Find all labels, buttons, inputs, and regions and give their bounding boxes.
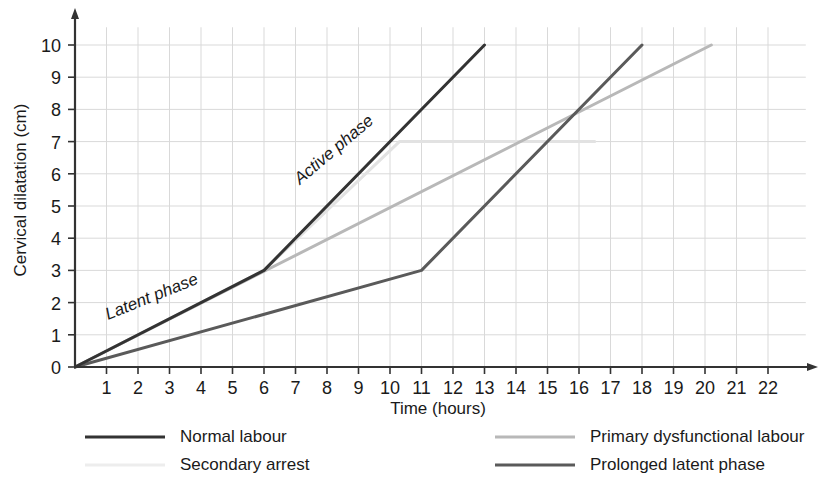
legend-label: Secondary arrest — [180, 455, 310, 474]
y-tick-label: 1 — [51, 326, 61, 346]
legend-item: Secondary arrest — [85, 455, 310, 474]
y-tick-label: 10 — [41, 36, 61, 56]
x-tick-label: 8 — [322, 378, 332, 398]
y-tick-label: 7 — [51, 133, 61, 153]
series-line — [75, 142, 595, 367]
x-tick-labels: 12345678910111213141516171819202122 — [101, 378, 778, 398]
legend-label: Prolonged latent phase — [590, 455, 765, 474]
legend-item: Primary dysfunctional labour — [495, 427, 805, 446]
y-tick-label: 8 — [51, 100, 61, 120]
gridlines — [75, 27, 806, 367]
x-tick-label: 14 — [506, 378, 526, 398]
x-axis-arrowhead — [807, 363, 818, 371]
x-tick-label: 4 — [196, 378, 206, 398]
x-tick-label: 22 — [758, 378, 778, 398]
legend-label: Normal labour — [180, 427, 287, 446]
x-tick-label: 17 — [600, 378, 620, 398]
y-tick-label: 5 — [51, 197, 61, 217]
x-tick-label: 3 — [164, 378, 174, 398]
y-tick-label: 6 — [51, 165, 61, 185]
legend-item: Normal labour — [85, 427, 287, 446]
legend-label: Primary dysfunctional labour — [590, 427, 805, 446]
x-tick-label: 13 — [474, 378, 494, 398]
partogram-figure: 12345678910111213141516171819202122 0123… — [0, 0, 829, 502]
x-tick-label: 7 — [290, 378, 300, 398]
x-tick-label: 5 — [227, 378, 237, 398]
y-tick-label: 9 — [51, 68, 61, 88]
x-tick-label: 6 — [259, 378, 269, 398]
y-tick-label: 2 — [51, 294, 61, 314]
x-tick-label: 10 — [380, 378, 400, 398]
y-axis-arrowhead — [71, 8, 79, 19]
y-tick-label: 3 — [51, 261, 61, 281]
x-tick-label: 15 — [537, 378, 557, 398]
x-tick-label: 21 — [726, 378, 746, 398]
y-tick-label: 0 — [51, 358, 61, 378]
y-tick-labels: 012345678910 — [41, 36, 61, 378]
x-tick-label: 9 — [353, 378, 363, 398]
x-tick-label: 11 — [412, 378, 431, 398]
y-axis-title: Cervical dilatation (cm) — [11, 104, 30, 277]
x-tick-label: 1 — [101, 378, 111, 398]
x-tick-label: 16 — [569, 378, 589, 398]
x-tick-label: 2 — [133, 378, 143, 398]
x-tick-label: 19 — [663, 378, 683, 398]
chart-legend: Normal labourPrimary dysfunctional labou… — [85, 427, 805, 474]
x-axis-title: Time (hours) — [390, 399, 486, 418]
x-tick-label: 18 — [632, 378, 652, 398]
x-tick-label: 20 — [695, 378, 715, 398]
y-tick-label: 4 — [51, 229, 61, 249]
legend-item: Prolonged latent phase — [495, 455, 765, 474]
cervical-dilatation-chart: 12345678910111213141516171819202122 0123… — [0, 0, 829, 502]
latent-phase-annotation: Latent phase — [102, 269, 200, 323]
x-tick-label: 12 — [443, 378, 463, 398]
